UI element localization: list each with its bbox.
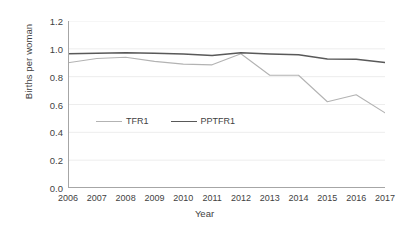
- y-axis-tick-label: 0.4: [50, 127, 63, 138]
- x-axis-tick-label: 2010: [173, 193, 193, 203]
- legend-label-pptfr1: PPTFR1: [201, 116, 236, 126]
- legend-entry-tfr1: TFR1: [96, 116, 149, 126]
- y-axis-tick-label: 1.2: [50, 16, 63, 27]
- x-axis-tick-label: 2009: [144, 193, 164, 203]
- chart-legend: TFR1 PPTFR1: [96, 116, 235, 126]
- x-axis-tick-label: 2006: [58, 193, 78, 203]
- y-axis-tick-label: 0.6: [50, 99, 63, 110]
- x-axis-title: Year: [0, 208, 409, 219]
- y-axis-title: Births per woman: [23, 0, 34, 132]
- plot-area: 0.00.20.40.60.81.01.22006200720082009201…: [68, 21, 385, 188]
- line-chart: Births per woman Year 0.00.20.40.60.81.0…: [0, 0, 409, 233]
- x-axis-tick-label: 2017: [375, 193, 395, 203]
- legend-swatch-tfr1: [96, 121, 122, 122]
- x-axis-tick-label: 2007: [87, 193, 107, 203]
- plot-canvas: [68, 21, 385, 188]
- legend-label-tfr1: TFR1: [126, 116, 149, 126]
- legend-swatch-pptfr1: [171, 121, 197, 122]
- y-axis-tick-label: 0.0: [50, 183, 63, 194]
- x-axis-tick-label: 2013: [260, 193, 280, 203]
- x-axis-tick-label: 2012: [231, 193, 251, 203]
- x-axis-tick-label: 2008: [116, 193, 136, 203]
- y-axis-tick-label: 0.2: [50, 155, 63, 166]
- y-axis-tick-label: 1.0: [50, 43, 63, 54]
- x-axis-tick-label: 2014: [289, 193, 309, 203]
- y-axis-tick-label: 0.8: [50, 71, 63, 82]
- x-axis-tick-label: 2011: [202, 193, 221, 203]
- x-axis-tick-label: 2016: [346, 193, 366, 203]
- legend-entry-pptfr1: PPTFR1: [171, 116, 236, 126]
- x-axis-tick-label: 2015: [317, 193, 337, 203]
